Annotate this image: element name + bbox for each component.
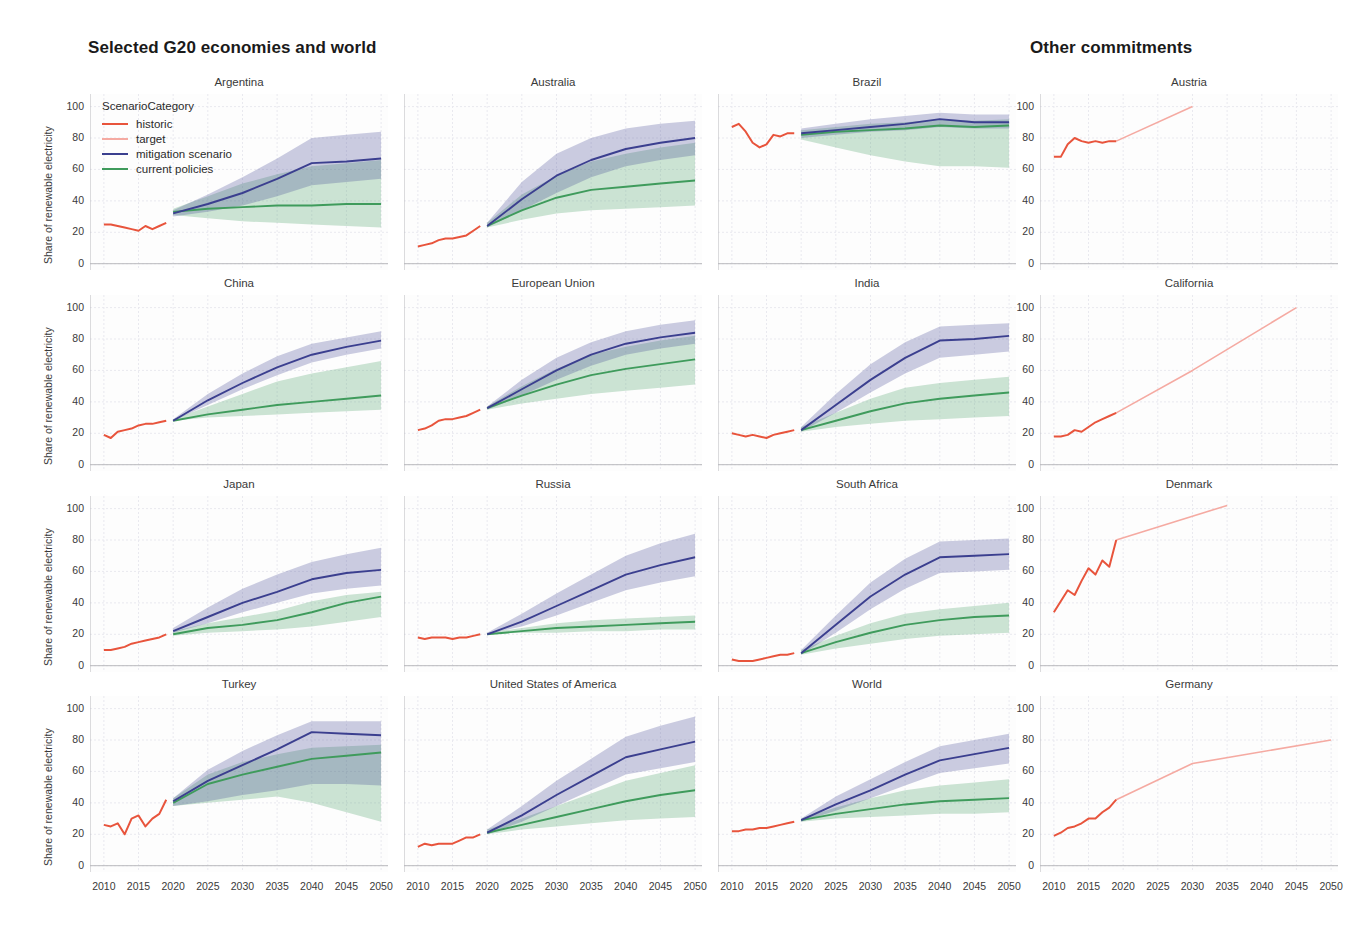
panel-title: Japan xyxy=(90,478,388,495)
y-axis-tick-label: 40 xyxy=(1008,596,1034,608)
panel-title: Russia xyxy=(404,478,702,495)
panel-title: Germany xyxy=(1040,678,1338,695)
panel-world: World xyxy=(718,678,1016,872)
y-axis-tick-label: 80 xyxy=(1008,533,1034,545)
legend-entry-label: current policies xyxy=(136,163,213,175)
panel-china: China xyxy=(90,277,388,471)
panel-germany: Germany xyxy=(1040,678,1338,872)
panel-title: South Africa xyxy=(718,478,1016,495)
chart-figure: Selected G20 economies and world Other c… xyxy=(0,0,1368,942)
legend-entry-label: mitigation scenario xyxy=(136,148,232,160)
plot-area xyxy=(1040,295,1338,471)
y-axis-tick-label: 80 xyxy=(58,533,84,545)
legend-entry[interactable]: mitigation scenario xyxy=(102,146,232,161)
y-axis-tick-label: 80 xyxy=(58,131,84,143)
y-axis-tick-label: 100 xyxy=(58,702,84,714)
y-axis-tick-label: 0 xyxy=(58,859,84,871)
panel-australia: Australia xyxy=(404,76,702,270)
panel-european-union: European Union xyxy=(404,277,702,471)
panel-japan: Japan xyxy=(90,478,388,672)
panel-title: Denmark xyxy=(1040,478,1338,495)
y-axis-tick-label: 0 xyxy=(58,257,84,269)
x-axis-tick-label: 2050 xyxy=(361,880,401,892)
y-axis-tick-label: 100 xyxy=(1008,702,1034,714)
legend-swatch-historic xyxy=(102,123,128,125)
x-axis-tick-label: 2050 xyxy=(989,880,1029,892)
y-axis-tick-label: 40 xyxy=(1008,796,1034,808)
legend-entries: historictargetmitigation scenariocurrent… xyxy=(102,116,232,176)
panel-california: California xyxy=(1040,277,1338,471)
legend-entry-label: historic xyxy=(136,118,172,130)
y-axis-tick-label: 40 xyxy=(58,596,84,608)
y-axis-tick-label: 20 xyxy=(1008,827,1034,839)
y-axis-tick-label: 80 xyxy=(1008,733,1034,745)
plot-area xyxy=(1040,94,1338,270)
plot-area xyxy=(404,295,702,471)
plot-area xyxy=(404,696,702,872)
y-axis-tick-label: 0 xyxy=(1008,859,1034,871)
legend-title: ScenarioCategory xyxy=(102,100,232,112)
plot-area xyxy=(718,696,1016,872)
y-axis-tick-label: 60 xyxy=(1008,764,1034,776)
legend-entry[interactable]: target xyxy=(102,131,232,146)
legend: ScenarioCategory historictargetmitigatio… xyxy=(102,100,232,176)
plot-area xyxy=(404,94,702,270)
panel-title: Australia xyxy=(404,76,702,93)
y-axis-tick-label: 20 xyxy=(1008,426,1034,438)
x-axis-tick-label: 2050 xyxy=(675,880,715,892)
plot-area xyxy=(90,696,388,872)
plot-area xyxy=(90,496,388,672)
legend-swatch-mitigation-scenario xyxy=(102,153,128,155)
panel-title: India xyxy=(718,277,1016,294)
y-axis-tick-label: 40 xyxy=(58,194,84,206)
y-axis-tick-label: 40 xyxy=(1008,395,1034,407)
y-axis-tick-label: 80 xyxy=(58,332,84,344)
plot-area xyxy=(1040,696,1338,872)
y-axis-tick-label: 60 xyxy=(1008,162,1034,174)
y-axis-tick-label: 80 xyxy=(1008,332,1034,344)
panel-title: Brazil xyxy=(718,76,1016,93)
y-axis-tick-label: 40 xyxy=(1008,194,1034,206)
y-axis-tick-label: 100 xyxy=(1008,100,1034,112)
y-axis-tick-label: 100 xyxy=(58,100,84,112)
legend-swatch-target xyxy=(102,138,128,140)
y-axis-tick-label: 20 xyxy=(58,225,84,237)
y-axis-tick-label: 60 xyxy=(58,764,84,776)
plot-area xyxy=(1040,496,1338,672)
y-axis-tick-label: 40 xyxy=(58,395,84,407)
panel-south-africa: South Africa xyxy=(718,478,1016,672)
legend-swatch-current-policies xyxy=(102,168,128,170)
panel-austria: Austria xyxy=(1040,76,1338,270)
y-axis-tick-label: 80 xyxy=(58,733,84,745)
plot-area xyxy=(718,94,1016,270)
y-axis-label: Share of renewable electricity xyxy=(42,728,54,866)
panel-title: World xyxy=(718,678,1016,695)
y-axis-tick-label: 60 xyxy=(58,564,84,576)
y-axis-tick-label: 0 xyxy=(1008,257,1034,269)
legend-entry[interactable]: historic xyxy=(102,116,232,131)
panel-title: Argentina xyxy=(90,76,388,93)
panel-denmark: Denmark xyxy=(1040,478,1338,672)
panel-title: European Union xyxy=(404,277,702,294)
y-axis-tick-label: 100 xyxy=(1008,502,1034,514)
panel-title: California xyxy=(1040,277,1338,294)
plot-area xyxy=(404,496,702,672)
legend-entry-label: target xyxy=(136,133,165,145)
y-axis-tick-label: 0 xyxy=(58,659,84,671)
y-axis-tick-label: 20 xyxy=(1008,627,1034,639)
y-axis-tick-label: 60 xyxy=(1008,564,1034,576)
y-axis-tick-label: 0 xyxy=(1008,458,1034,470)
y-axis-tick-label: 0 xyxy=(58,458,84,470)
plot-area xyxy=(718,496,1016,672)
y-axis-tick-label: 80 xyxy=(1008,131,1034,143)
panel-united-states-of-america: United States of America xyxy=(404,678,702,872)
y-axis-tick-label: 20 xyxy=(58,627,84,639)
y-axis-tick-label: 60 xyxy=(58,363,84,375)
y-axis-label: Share of renewable electricity xyxy=(42,528,54,666)
y-axis-tick-label: 20 xyxy=(58,426,84,438)
plot-area xyxy=(90,295,388,471)
legend-entry[interactable]: current policies xyxy=(102,161,232,176)
panel-title: United States of America xyxy=(404,678,702,695)
y-axis-tick-label: 60 xyxy=(58,162,84,174)
y-axis-tick-label: 20 xyxy=(1008,225,1034,237)
